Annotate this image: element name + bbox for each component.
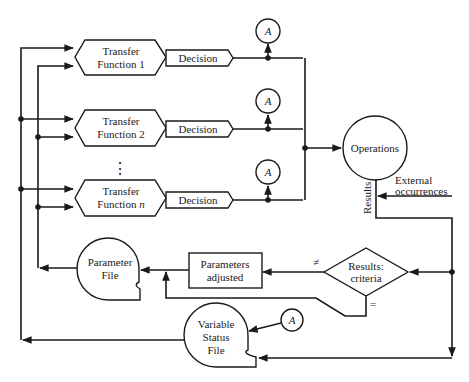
svg-text:Transfer: Transfer [103, 115, 140, 127]
svg-text:criteria: criteria [350, 272, 381, 284]
svg-text:Transfer: Transfer [103, 185, 140, 197]
decision-outputs [233, 44, 341, 203]
svg-text:Function 1: Function 1 [97, 58, 144, 70]
not-equal-label: ≠ [313, 256, 319, 268]
svg-text:Operations: Operations [351, 142, 399, 154]
left-bus-lines [18, 48, 73, 340]
decision-1: Decision [166, 50, 233, 66]
parameters-adjusted-box: Parameters adjusted [189, 253, 262, 288]
monitor-a-status: A [281, 309, 303, 331]
transfer-function-2: Transfer Function 2 [75, 110, 166, 146]
monitor-a-n: A [256, 160, 280, 184]
svg-text:A: A [264, 95, 272, 107]
svg-text:A: A [288, 314, 296, 326]
decision-n: Decision [166, 192, 233, 208]
transfer-function-n: Transfer Function n [75, 180, 166, 216]
svg-text:Function n: Function n [97, 198, 145, 210]
svg-text:Parameter: Parameter [88, 256, 133, 268]
transfer-function-1: Transfer Function 1 [75, 40, 166, 75]
monitor-a-1: A [256, 19, 280, 43]
svg-text:occurrences: occurrences [395, 185, 448, 197]
svg-text:Decision: Decision [178, 194, 218, 206]
equal-label: = [370, 298, 376, 310]
svg-text:A: A [264, 166, 272, 178]
svg-text:Parameters: Parameters [201, 258, 250, 270]
svg-text:Function 2: Function 2 [97, 128, 144, 140]
svg-text:Status: Status [203, 331, 230, 343]
svg-text:Transfer: Transfer [103, 45, 140, 57]
ellipsis-dots: ⋮ [112, 160, 128, 177]
monitor-a-2: A [256, 89, 280, 113]
decision-2: Decision [166, 121, 233, 137]
operations-node: Operations [343, 116, 407, 180]
svg-text:File: File [207, 344, 224, 356]
svg-text:Results:: Results: [348, 260, 383, 272]
svg-text:Decision: Decision [178, 123, 218, 135]
svg-text:Decision: Decision [178, 52, 218, 64]
svg-text:adjusted: adjusted [207, 271, 244, 283]
results-criteria-decision: Results: criteria [324, 248, 408, 296]
svg-text:Results: Results [361, 182, 373, 214]
parameter-file-store: Parameter File [77, 238, 140, 300]
svg-text:File: File [101, 269, 118, 281]
variable-status-file-store: Variable Status File [184, 303, 256, 367]
svg-text:A: A [264, 25, 272, 37]
svg-text:Variable: Variable [198, 318, 235, 330]
feedback-control-diagram: Transfer Function 1 Decision Transfer Fu… [0, 0, 469, 382]
